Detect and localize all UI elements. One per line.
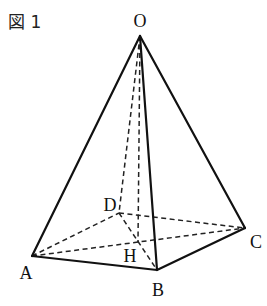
pyramid-diagram: 図 1 O A B C D H xyxy=(0,0,267,306)
edge-OD xyxy=(119,36,140,213)
edge-AB xyxy=(32,256,157,270)
vertex-label-B: B xyxy=(152,280,164,300)
edge-OH xyxy=(138,36,140,242)
figure-label: 図 1 xyxy=(8,12,41,32)
vertex-label-A: A xyxy=(20,263,33,283)
vertex-label-O: O xyxy=(134,11,147,31)
edge-OB xyxy=(140,36,157,270)
vertex-label-C: C xyxy=(250,232,262,252)
hidden-edges xyxy=(32,36,245,270)
vertex-label-H: H xyxy=(124,246,137,266)
edge-OA xyxy=(32,36,140,256)
edge-OC xyxy=(140,36,245,228)
vertex-label-D: D xyxy=(104,195,117,215)
